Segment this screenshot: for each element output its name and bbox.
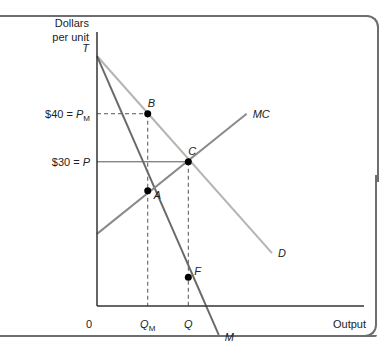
curve-d xyxy=(97,56,272,253)
chart: Dollarsper unitOutput0TBCAFDMMC$40 = PM$… xyxy=(0,0,391,357)
curve-mc xyxy=(97,114,247,234)
y-tick-label: $40 = PM xyxy=(45,108,90,123)
point-label-t: T xyxy=(82,42,90,54)
y-tick-label: $30 = P xyxy=(52,156,91,168)
curve-label-mc: MC xyxy=(253,108,270,120)
x-tick-label: Q xyxy=(184,318,193,330)
point-label-f: F xyxy=(194,265,202,277)
y-axis-label: Dollars xyxy=(55,17,90,29)
point-f xyxy=(185,274,192,281)
point-b xyxy=(144,110,151,117)
curve-label-m: M xyxy=(225,331,235,343)
point-a xyxy=(144,187,151,194)
point-label-c: C xyxy=(188,145,196,157)
origin-label: 0 xyxy=(86,318,92,330)
point-label-a: A xyxy=(153,189,161,201)
x-tick-label: QM xyxy=(140,318,156,333)
x-axis-label: Output xyxy=(333,318,366,330)
point-label-b: B xyxy=(148,97,155,109)
curve-label-d: D xyxy=(278,247,286,259)
point-c xyxy=(185,158,192,165)
